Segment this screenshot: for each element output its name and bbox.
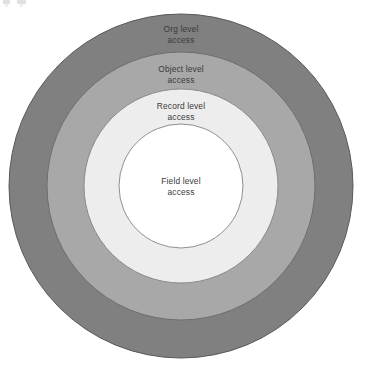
ring-label-record-level-line1: Record level	[131, 101, 231, 112]
scan-artifact	[5, 4, 8, 7]
ring-label-org-level-line2: access	[131, 35, 231, 46]
ring-label-object-level-line2: access	[131, 75, 231, 86]
ring-label-field-level-line1: Field level	[131, 176, 231, 187]
ring-label-org-level: Org level access	[131, 24, 231, 45]
ring-label-record-level: Record level access	[131, 101, 231, 122]
ring-label-object-level-line1: Object level	[131, 64, 231, 75]
ring-label-org-level-line1: Org level	[131, 24, 231, 35]
ring-label-object-level: Object level access	[131, 64, 231, 85]
scan-artifact	[20, 4, 23, 7]
ring-label-field-level: Field level access	[131, 176, 231, 197]
ring-label-field-level-line2: access	[131, 187, 231, 198]
ring-label-record-level-line2: access	[131, 112, 231, 123]
